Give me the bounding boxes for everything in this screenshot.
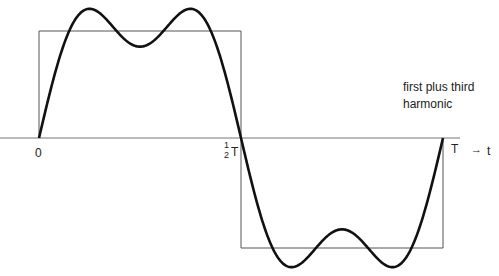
label-half-denominator: 2 <box>224 151 229 160</box>
caption-line-2: harmonic <box>403 97 452 111</box>
axis-variable: t <box>487 144 490 158</box>
axis-arrow-icon: → <box>471 143 482 155</box>
label-half-T: T <box>231 145 238 159</box>
label-half-numerator: 1 <box>224 141 229 150</box>
caption-line-1: first plus third <box>403 80 474 94</box>
label-T: T <box>451 142 458 156</box>
waveform-diagram <box>0 0 499 276</box>
label-zero: 0 <box>35 146 42 160</box>
